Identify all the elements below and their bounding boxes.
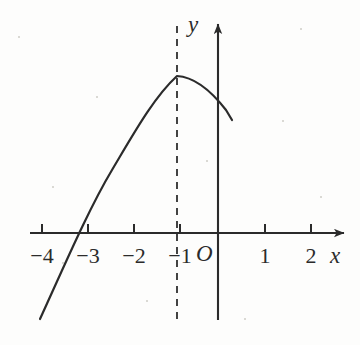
x-axis-label: x xyxy=(330,243,340,269)
tick-label-minus-1: −1 xyxy=(163,243,197,269)
tick-label-minus-2: −2 xyxy=(117,243,151,269)
tick-label-minus-3: −3 xyxy=(71,243,105,269)
tick-label-1: 1 xyxy=(248,243,282,269)
parabola-figure: −4 −3 −2 −1 1 2 O y x xyxy=(0,0,360,345)
y-axis-label: y xyxy=(188,12,198,38)
parabola-curve xyxy=(40,76,232,319)
tick-label-minus-4: −4 xyxy=(25,243,59,269)
graph-canvas xyxy=(0,0,360,345)
tick-label-2: 2 xyxy=(294,243,328,269)
origin-label: O xyxy=(196,241,213,267)
